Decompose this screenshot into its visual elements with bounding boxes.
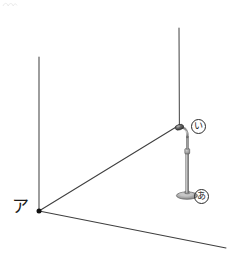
microphone-head [174, 123, 184, 131]
microphone-stand-group [174, 123, 197, 199]
floor-front-edge-line [39, 211, 226, 248]
scan-artifact-mark [2, 1, 18, 8]
circled-annotation-a-text: あ [197, 192, 206, 201]
corner-vertex-dot [37, 209, 42, 214]
circled-annotation-i: い [191, 119, 206, 134]
circled-annotation-a: あ [194, 189, 209, 204]
circled-annotation-i-text: い [194, 122, 203, 131]
wall-floor-junction-line [39, 125, 179, 211]
corner-vertex-label: ア [12, 198, 29, 215]
room-structure-lines [37, 28, 227, 248]
perspective-diagram-canvas: ア い あ [0, 0, 230, 273]
diagram-drawing [0, 0, 230, 273]
mic-stand-upper-pole [186, 137, 188, 150]
mic-stand-height-collar [185, 149, 190, 154]
mic-stand-pole [186, 152, 189, 193]
